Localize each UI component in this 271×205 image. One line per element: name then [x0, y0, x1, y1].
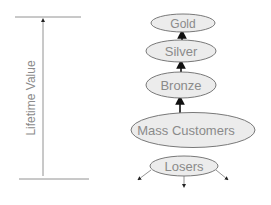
losers-arrow-right [216, 170, 227, 179]
silver-label: Silver [165, 44, 198, 59]
bronze-label: Bronze [160, 78, 201, 93]
tier-losers: Losers [139, 156, 227, 186]
tier-mass-customers: Mass Customers [131, 113, 255, 148]
tier-bronze: Bronze [146, 72, 216, 98]
tier-silver: Silver [146, 40, 216, 62]
gold-label: Gold [170, 17, 195, 31]
losers-label: Losers [164, 159, 204, 174]
mass-customers-label: Mass Customers [137, 123, 235, 138]
lifetime-value-axis: Lifetime Value [15, 17, 89, 179]
axis-label: Lifetime Value [24, 60, 38, 135]
tier-gold: Gold [151, 14, 215, 32]
customer-pyramid-diagram: Lifetime Value Gold Silver Bronze Mass C… [0, 0, 271, 205]
losers-arrow-left [139, 170, 151, 179]
